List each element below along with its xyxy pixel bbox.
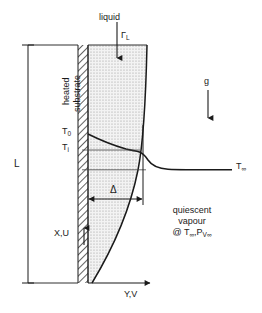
ti-subscript: i [68,146,69,153]
vapour-tinf-subscript: ∞ [189,231,194,238]
wall-temperature-label: T0 [62,126,71,136]
vapour-label-line3: @ T∞,PV∞ [156,227,228,237]
liquid-label: liquid [99,12,120,22]
vapour-pvinf-subscript: V∞ [203,231,212,238]
film-thickness-label: Δ [110,184,117,196]
ti-symbol: T [62,142,68,152]
vapour-comma-p: ,P [194,227,203,237]
ambient-temperature-label: T∞ [236,161,246,171]
substrate-label-line2: substrate [72,75,82,112]
interface-temperature-label: Ti [62,142,69,152]
x-axis-label: X,U [54,228,69,238]
gravity-label: g [204,76,209,86]
liquid-film-region [88,45,147,283]
y-axis-label: Y,V [124,289,137,299]
substrate-label-line1: heated [61,77,71,105]
length-label: L [14,158,20,170]
vapour-label-line1: quiescent [156,205,228,215]
falling-film-schematic-diagram: liquid ΓL g heated substrate L T0 Ti T∞ … [0,0,262,313]
liquid-flow-rate-label: ΓL [121,30,130,40]
diagram-canvas [0,0,262,313]
vapour-label-line2: vapour [156,216,228,226]
t0-symbol: T [62,126,68,136]
t0-subscript: 0 [68,130,72,137]
tinf-subscript: ∞ [242,165,247,172]
vapour-at-symbol: @ T [172,227,189,237]
gamma-subscript: L [126,34,130,41]
tinf-symbol: T [236,161,242,171]
